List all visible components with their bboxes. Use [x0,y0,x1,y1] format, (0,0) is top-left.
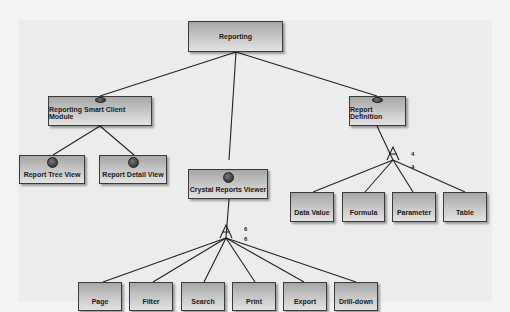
cardinality-lower: 4 [411,164,414,170]
node-page[interactable]: Page [78,282,122,311]
node-parameter[interactable]: Parameter [392,192,436,222]
cardinality-lower: 6 [244,236,247,242]
node-label: Reporting Smart Client Module [49,106,151,120]
node-print[interactable]: Print [232,282,276,311]
node-label: Print [246,298,262,305]
node-crystal-reports-viewer[interactable]: Crystal Reports Viewer [188,169,268,199]
node-filter[interactable]: Filter [129,282,173,311]
node-report-tree-view[interactable]: Report Tree View [19,155,85,184]
node-formula[interactable]: Formula [342,192,385,222]
cardinality-upper: 4 [411,151,414,157]
node-reporting-smart-client-module[interactable]: Reporting Smart Client Module [48,96,152,126]
feature-marker-icon [47,157,58,168]
node-label: Filter [142,298,159,305]
node-label: Parameter [397,209,431,216]
node-table[interactable]: Table [443,192,487,222]
feature-marker-icon [223,172,234,183]
node-report-definition[interactable]: Report Definition [349,96,406,126]
node-label: Report Definition [350,106,405,120]
node-data-value[interactable]: Data Value [290,192,334,222]
node-label: Report Detail View [102,171,163,178]
node-label: Drill-down [339,298,373,305]
feature-marker-icon [372,97,383,103]
node-drill-down[interactable]: Drill-down [334,282,378,311]
node-search[interactable]: Search [181,282,225,311]
node-label: Report Tree View [24,171,81,178]
node-label: Table [456,209,474,216]
node-label: Reporting [219,33,252,40]
node-label: Search [191,298,214,305]
node-label: Page [92,298,109,305]
node-label: Crystal Reports Viewer [190,186,267,193]
root-node[interactable]: Reporting [188,21,283,52]
cardinality-upper: 6 [244,226,247,232]
feature-marker-icon [128,157,139,168]
feature-marker-icon [95,97,106,103]
node-label: Data Value [294,209,329,216]
node-export[interactable]: Export [283,282,327,311]
node-label: Export [294,298,316,305]
node-label: Formula [350,209,378,216]
node-report-detail-view[interactable]: Report Detail View [99,155,167,184]
